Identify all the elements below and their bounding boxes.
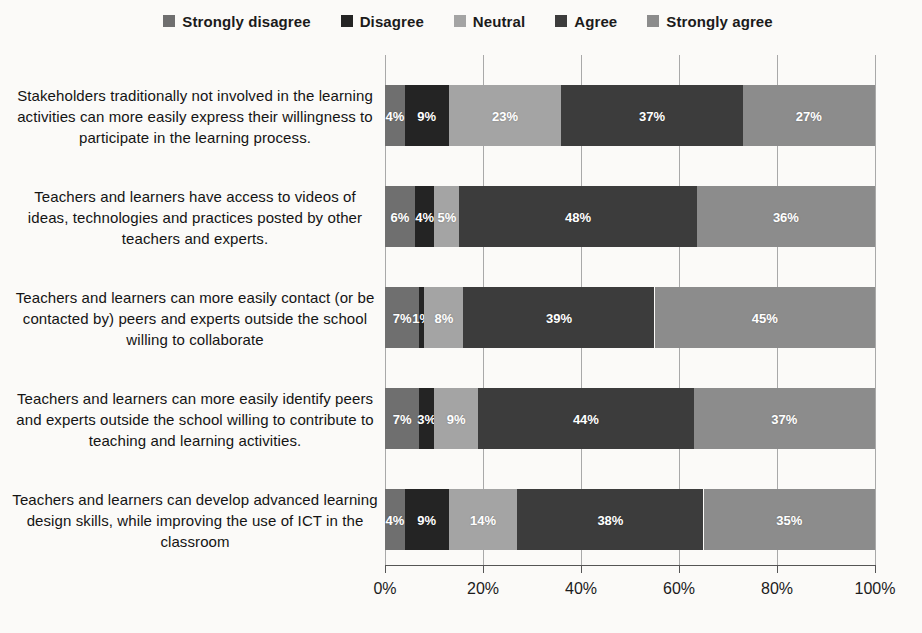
- legend-item: Strongly disagree: [163, 13, 310, 30]
- x-tick-label: 0%: [373, 580, 396, 598]
- category-label: Teachers and learners can more easily co…: [12, 286, 378, 349]
- x-tick-label: 60%: [663, 580, 695, 598]
- axis-tick: [483, 565, 484, 573]
- x-tick-label: 20%: [467, 580, 499, 598]
- percent-label: 14%: [470, 512, 496, 527]
- axis-tick: [679, 565, 680, 573]
- stacked-bar: 7%1%8%39%45%: [385, 287, 875, 348]
- percent-label: 7%: [393, 310, 412, 325]
- axis-tick: [385, 565, 386, 573]
- percent-label: 6%: [390, 209, 409, 224]
- percent-label: 7%: [393, 411, 412, 426]
- chart-legend: Strongly disagreeDisagreeNeutralAgreeStr…: [0, 9, 922, 33]
- x-tick-label: 100%: [855, 580, 896, 598]
- legend-item-label: Disagree: [360, 13, 424, 30]
- percent-label: 45%: [752, 310, 778, 325]
- legend-item-label: Agree: [574, 13, 617, 30]
- x-axis-line: [385, 565, 876, 566]
- legend-item-label: Strongly agree: [666, 13, 772, 30]
- percent-label: 44%: [573, 411, 599, 426]
- percent-label: 9%: [417, 512, 436, 527]
- legend-item-label: Strongly disagree: [182, 13, 310, 30]
- percent-label: 8%: [434, 310, 453, 325]
- percent-label: 23%: [492, 108, 518, 123]
- percent-label: 4%: [415, 209, 434, 224]
- stacked-bar: 4%9%23%37%27%: [385, 85, 875, 146]
- x-tick-label: 40%: [565, 580, 597, 598]
- percent-label: 27%: [796, 108, 822, 123]
- axis-tick: [581, 565, 582, 573]
- stacked-bar: 6%4%5%48%36%: [385, 186, 875, 247]
- percent-label: 5%: [437, 209, 456, 224]
- stacked-bar: 7%3%9%44%37%: [385, 388, 875, 449]
- legend-item-label: Neutral: [473, 13, 525, 30]
- category-label: Stakeholders traditionally not involved …: [12, 84, 378, 147]
- percent-label: 35%: [776, 512, 802, 527]
- percent-label: 37%: [639, 108, 665, 123]
- axis-tick: [875, 565, 876, 573]
- legend-swatch-icon: [454, 15, 466, 27]
- category-label: Teachers and learners have access to vid…: [12, 185, 378, 248]
- percent-label: 39%: [546, 310, 572, 325]
- legend-item: Strongly agree: [647, 13, 772, 30]
- scanned-chart-page: Strongly disagreeDisagreeNeutralAgreeStr…: [0, 0, 922, 633]
- percent-label: 36%: [773, 209, 799, 224]
- legend-swatch-icon: [555, 15, 567, 27]
- percent-label: 4%: [385, 108, 404, 123]
- category-label: Teachers and learners can develop advanc…: [12, 488, 378, 551]
- percent-label: 38%: [597, 512, 623, 527]
- grid-line: [875, 55, 876, 565]
- legend-swatch-icon: [163, 15, 175, 27]
- legend-swatch-icon: [341, 15, 353, 27]
- percent-label: 9%: [417, 108, 436, 123]
- axis-tick: [777, 565, 778, 573]
- legend-item: Agree: [555, 13, 617, 30]
- x-tick-label: 80%: [761, 580, 793, 598]
- category-label: Teachers and learners can more easily id…: [12, 387, 378, 450]
- legend-item: Disagree: [341, 13, 424, 30]
- percent-label: 9%: [447, 411, 466, 426]
- percent-label: 4%: [385, 512, 404, 527]
- percent-label: 37%: [771, 411, 797, 426]
- stacked-bar: 4%9%14%38%35%: [385, 489, 875, 550]
- percent-label: 48%: [565, 209, 591, 224]
- legend-swatch-icon: [647, 15, 659, 27]
- legend-item: Neutral: [454, 13, 525, 30]
